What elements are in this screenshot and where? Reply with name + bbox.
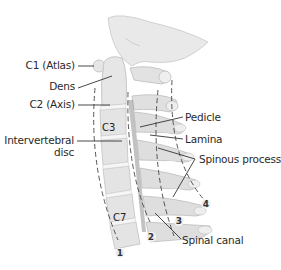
cervical-spine-diagram: C1 (Atlas) Dens C2 (Axis) Intervertebral… [0,0,281,270]
label-lamina: Lamina [185,133,222,145]
label-pedicle: Pedicle [185,111,221,123]
marker-1: 1 [115,248,125,258]
marker-2: 2 [146,232,156,242]
label-spinous-process: Spinous process [199,153,281,165]
marker-4: 4 [201,199,211,209]
label-c3: C3 [102,122,115,133]
label-intervertebral: Intervertebral [0,134,74,146]
label-spinal-canal: Spinal canal [182,234,243,246]
posterior-elements [134,112,210,242]
label-disc: disc [0,146,74,158]
label-c2-axis: C2 (Axis) [2,98,75,110]
skull-base [108,16,208,66]
label-c1-atlas: C1 (Atlas) [2,59,75,71]
label-c7: C7 [113,212,126,223]
marker-3: 3 [174,216,184,226]
label-dens: Dens [2,80,75,92]
dens-c2-body [101,57,126,106]
